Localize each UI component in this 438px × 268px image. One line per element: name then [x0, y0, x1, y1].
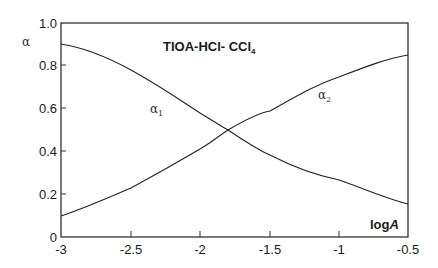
x-tick-label: -1 [333, 242, 345, 257]
x-axis-label: logA [370, 217, 399, 232]
x-axis: -3 -2.5 -2 -1.5 -1 -0.5 [55, 231, 419, 257]
y-tick-label: 0.4 [39, 144, 57, 159]
chart: -3 -2.5 -2 -1.5 -1 -0.5 0 0.2 0.4 0.6 0.… [0, 0, 438, 268]
y-tick-label: 0.2 [39, 187, 57, 202]
x-tick-label: -2 [194, 242, 206, 257]
y-tick-label: 0.6 [39, 101, 57, 116]
y-tick-label: 0.8 [39, 58, 57, 73]
x-tick-label: -1.5 [259, 242, 281, 257]
y-tick-label: 1.0 [39, 16, 57, 31]
x-tick-label: -0.5 [397, 242, 419, 257]
series-alpha1-line [61, 44, 408, 204]
y-tick-label: 0 [50, 230, 57, 245]
alpha2-label: α2 [318, 88, 331, 104]
series-alpha2-line [61, 55, 408, 216]
y-axis: 0 0.2 0.4 0.6 0.8 1.0 [39, 16, 66, 245]
plot-frame [61, 23, 408, 237]
alpha1-label: α1 [150, 102, 163, 118]
y-axis-label: α [22, 35, 30, 49]
x-tick-label: -2.5 [120, 242, 142, 257]
chart-title: TIOA-HCl- CCl4 [163, 39, 256, 56]
